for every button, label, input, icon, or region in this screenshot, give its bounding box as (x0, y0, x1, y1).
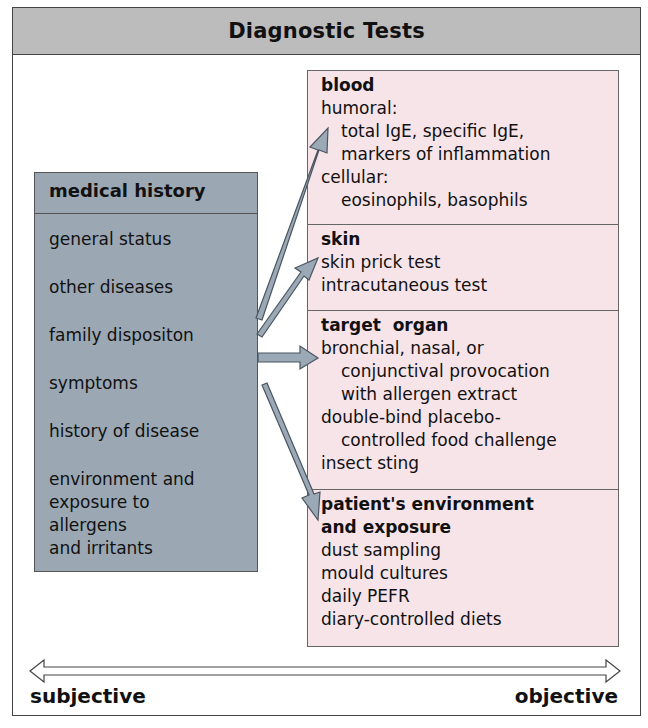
title-band: Diagnostic Tests (13, 8, 640, 55)
test-line: controlled food challenge (321, 429, 618, 452)
history-item-environment-line: and irritants (49, 537, 257, 560)
medical-history-box: medical history general status other dis… (34, 172, 258, 572)
scale-label-objective: objective (515, 684, 618, 708)
test-line: eosinophils, basophils (321, 189, 618, 212)
medical-history-header: medical history (35, 173, 257, 214)
history-item-environment-line: exposure to (49, 491, 257, 514)
history-item-environment: environment and exposure to allergens an… (49, 468, 257, 560)
section-title: and exposure (321, 516, 618, 539)
history-item-family-disposition: family dispositon (49, 324, 257, 347)
section-title: target organ (321, 314, 618, 337)
test-line: daily PEFR (321, 585, 618, 608)
test-section-environment: patient's environment and exposure dust … (308, 489, 618, 647)
test-line: intracutaneous test (321, 274, 618, 297)
diagram-title: Diagnostic Tests (228, 19, 425, 43)
test-line: dust sampling (321, 539, 618, 562)
test-section-blood: blood humoral: total IgE, specific IgE, … (308, 71, 618, 225)
test-line: insect sting (321, 452, 618, 475)
test-line: double-bind placebo- (321, 406, 618, 429)
history-item-history-of-disease: history of disease (49, 420, 257, 443)
test-line: mould cultures (321, 562, 618, 585)
diagnostic-tests-box: blood humoral: total IgE, specific IgE, … (307, 70, 619, 647)
section-title: patient's environment (321, 493, 618, 516)
test-section-skin: skin skin prick test intracutaneous test (308, 224, 618, 311)
test-line: cellular: (321, 166, 618, 189)
history-item-other-diseases: other diseases (49, 276, 257, 299)
history-item-symptoms: symptoms (49, 372, 257, 395)
medical-history-list: general status other diseases family dis… (35, 214, 257, 560)
history-item-general-status: general status (49, 228, 257, 251)
test-line: skin prick test (321, 251, 618, 274)
test-line: markers of inflammation (321, 143, 618, 166)
test-line: diary-controlled diets (321, 608, 618, 631)
history-item-environment-line: environment and (49, 468, 257, 491)
test-line: conjunctival provocation (321, 360, 618, 383)
test-line: total IgE, specific IgE, (321, 120, 618, 143)
history-item-environment-line: allergens (49, 514, 257, 537)
test-line: bronchial, nasal, or (321, 337, 618, 360)
section-title: skin (321, 228, 618, 251)
test-line: humoral: (321, 97, 618, 120)
scale-label-subjective: subjective (30, 684, 146, 708)
test-section-target-organ: target organ bronchial, nasal, or conjun… (308, 310, 618, 490)
section-title: blood (321, 74, 618, 97)
test-line: with allergen extract (321, 383, 618, 406)
